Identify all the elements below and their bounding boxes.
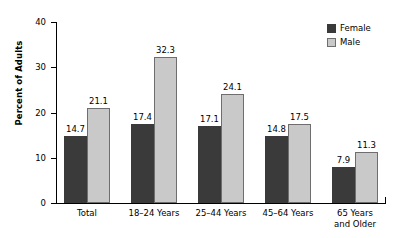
bar-value-label: 32.3 xyxy=(149,46,183,55)
bar-female-1[interactable] xyxy=(131,124,154,203)
bar-value-label: 17.5 xyxy=(283,113,317,122)
y-tick-mark xyxy=(51,67,56,68)
x-axis-line xyxy=(56,203,386,204)
y-tick-label: 30 xyxy=(6,63,46,72)
legend-label-male: Male xyxy=(340,38,360,47)
y-tick-mark xyxy=(51,203,56,204)
bar-male-4[interactable] xyxy=(355,152,378,203)
y-tick-label: 0 xyxy=(6,199,46,208)
legend-label-female: Female xyxy=(340,24,371,33)
x-category-label-line1: Total xyxy=(77,208,97,218)
y-axis-title: Percent of Adults xyxy=(14,23,24,143)
bar-value-label: 24.1 xyxy=(216,83,250,92)
x-category-label-line1: 45–64 Years xyxy=(262,208,313,218)
legend-swatch-male-icon xyxy=(327,38,336,47)
legend-item-female[interactable]: Female xyxy=(327,22,371,34)
y-tick-label: 10 xyxy=(6,154,46,163)
bar-male-1[interactable] xyxy=(154,57,177,203)
bar-female-4[interactable] xyxy=(332,167,355,203)
bar-value-label: 11.3 xyxy=(350,141,384,150)
legend-swatch-female-icon xyxy=(327,24,336,33)
y-tick-label: 20 xyxy=(6,109,46,118)
bar-female-3[interactable] xyxy=(265,136,288,203)
legend: Female Male xyxy=(327,22,371,50)
x-category-label-line1: 65 Years xyxy=(337,208,373,218)
y-axis-line xyxy=(56,22,57,204)
bar-female-2[interactable] xyxy=(198,126,221,203)
bar-male-3[interactable] xyxy=(288,124,311,203)
bar-chart: Percent of Adults 010203040 14.717.417.1… xyxy=(0,0,411,238)
y-tick-mark xyxy=(51,113,56,114)
legend-item-male[interactable]: Male xyxy=(327,36,371,48)
x-category-label-4: 65 Yearsand Older xyxy=(310,208,400,230)
x-category-label-line1: 25–44 Years xyxy=(195,208,246,218)
x-category-label-line2: and Older xyxy=(310,219,400,230)
bar-male-2[interactable] xyxy=(221,94,244,203)
bar-male-0[interactable] xyxy=(87,108,110,203)
y-tick-label: 40 xyxy=(6,18,46,27)
y-tick-mark xyxy=(51,22,56,23)
bar-female-0[interactable] xyxy=(64,136,87,203)
x-axis-right-cap xyxy=(385,197,386,204)
x-category-label-line1: 18–24 Years xyxy=(128,208,179,218)
bar-value-label: 21.1 xyxy=(82,97,116,106)
y-tick-mark xyxy=(51,158,56,159)
